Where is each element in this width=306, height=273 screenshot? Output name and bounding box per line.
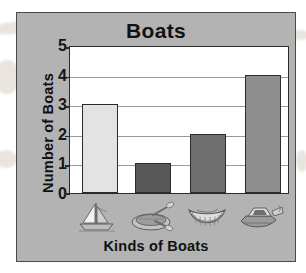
bar <box>135 163 171 193</box>
y-axis-tick-labels: 543210 <box>51 40 67 190</box>
motorboat-icon <box>234 197 289 235</box>
y-axis-tick-label: 3 <box>58 97 67 113</box>
bar <box>82 104 118 193</box>
y-axis-tick-label: 1 <box>58 156 67 172</box>
bar-series <box>70 47 288 193</box>
bar <box>190 134 226 193</box>
chart-card: Boats Number of Boats 543210 Kinds of Bo… <box>16 12 296 262</box>
y-axis-tick-label: 5 <box>58 38 67 54</box>
canoe-icon <box>179 197 234 235</box>
paper-smudge <box>296 150 306 172</box>
y-axis-tick-label: 4 <box>58 68 67 84</box>
paper-smudge <box>0 150 17 168</box>
plot-area <box>69 46 289 194</box>
x-axis-title: Kinds of Boats <box>17 238 295 254</box>
y-axis-tick-label: 2 <box>58 127 67 143</box>
bar <box>245 75 281 193</box>
sailboat-icon <box>69 197 124 235</box>
category-icon-strip <box>69 197 289 235</box>
rowboat-icon <box>124 197 179 235</box>
y-axis-tick-mark <box>65 193 70 195</box>
